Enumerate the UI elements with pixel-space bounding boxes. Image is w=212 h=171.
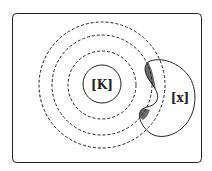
diagram-canvas: [K] [x] [0, 0, 212, 171]
blob-label: [x] [171, 91, 190, 105]
central-label: [K] [91, 78, 113, 92]
